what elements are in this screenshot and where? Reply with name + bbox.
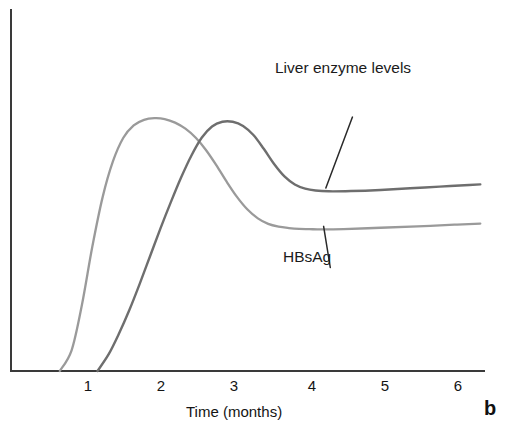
x-tick-label-2: 2 — [149, 378, 173, 393]
chart-plot-area — [0, 0, 505, 431]
leader-line-liver-enzyme — [326, 117, 353, 188]
x-tick-label-3: 3 — [222, 378, 246, 393]
x-tick-label-1: 1 — [76, 378, 100, 393]
x-tick-label-6: 6 — [446, 378, 470, 393]
figure-panel: Liver enzyme levels HBsAg 1 2 3 4 5 6 Ti… — [0, 0, 505, 431]
series-label-liver-enzyme: Liver enzyme levels — [275, 60, 411, 76]
series-label-hbsag: HBsAg — [283, 249, 331, 265]
x-tick-label-5: 5 — [373, 378, 397, 393]
series-curve-liver-enzyme — [97, 121, 480, 371]
panel-letter-label: b — [484, 398, 496, 418]
axis-group — [11, 10, 484, 371]
x-tick-label-4: 4 — [300, 378, 324, 393]
x-axis-title: Time (months) — [186, 404, 282, 419]
series-curves-group — [60, 118, 481, 371]
